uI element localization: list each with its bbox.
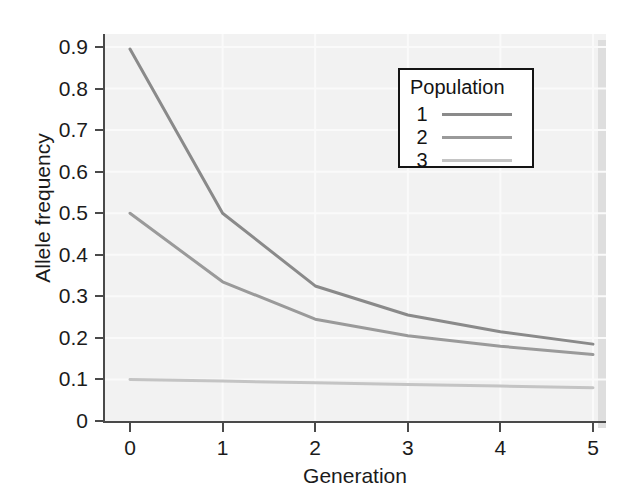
legend-entry-label: 3 [414,150,430,170]
legend-entry-label: 2 [414,127,430,147]
chart-figure: 00.10.20.30.40.50.60.70.80.9 012345 Alle… [0,0,628,492]
y-tick-label: 0 [28,410,88,431]
y-tick-label: 0.9 [28,36,88,57]
legend-color-swatch [442,159,512,162]
y-tick-label: 0.2 [28,327,88,348]
y-tick-mark [95,295,104,297]
y-tick-mark [95,212,104,214]
x-tick-label: 1 [203,437,243,458]
legend-entry: 1 [414,104,526,124]
x-tick-label: 3 [388,437,428,458]
x-tick-mark [407,423,409,432]
y-tick-mark [95,337,104,339]
legend-entry-label: 1 [414,104,430,124]
y-axis-line [103,34,105,423]
y-tick-mark [95,46,104,48]
x-tick-mark [222,423,224,432]
y-tick-label: 0.1 [28,368,88,389]
x-axis-line [103,421,606,423]
y-tick-mark [95,254,104,256]
y-tick-mark [95,420,104,422]
y-tick-mark [95,88,104,90]
legend-box: Population 123 [398,68,534,168]
x-tick-mark [129,423,131,432]
x-tick-mark [499,423,501,432]
data-series-line [130,379,593,387]
legend-entry: 3 [414,150,526,170]
legend-color-swatch [442,136,512,139]
x-tick-label: 0 [110,437,150,458]
x-tick-mark [592,423,594,432]
x-axis-title: Generation [104,464,606,488]
y-axis-title: Allele frequency [31,93,55,323]
x-tick-label: 2 [295,437,335,458]
x-tick-label: 4 [480,437,520,458]
y-tick-mark [95,378,104,380]
legend-color-swatch [442,113,512,116]
legend-entry: 2 [414,127,526,147]
y-tick-mark [95,129,104,131]
y-tick-mark [95,171,104,173]
legend-title: Population [410,76,505,99]
x-tick-label: 5 [573,437,613,458]
x-tick-mark [314,423,316,432]
